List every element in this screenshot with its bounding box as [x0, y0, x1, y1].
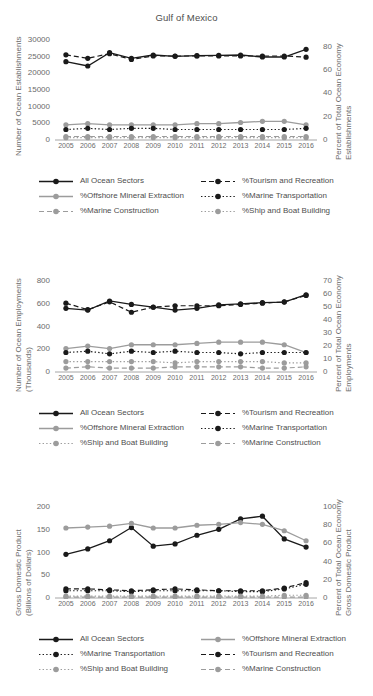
legend-item-all-ocean-sectors[interactable]: All Ocean Sectors: [38, 176, 200, 186]
x-axis-tick-label: 2010: [164, 374, 186, 381]
data-point: [260, 135, 265, 140]
data-point: [107, 588, 112, 593]
data-point: [303, 544, 308, 549]
y-axis-tick-right: 20: [323, 113, 332, 121]
data-point: [107, 127, 112, 132]
legend-label: %Offshore Mineral Extraction: [80, 191, 184, 201]
series-line: [66, 121, 306, 125]
y-axis-tick-left: 0: [46, 368, 50, 376]
data-point: [107, 538, 112, 543]
data-point: [282, 342, 287, 347]
y-axis-title-right-line2: Establishments: [344, 106, 354, 160]
data-point: [151, 544, 156, 549]
data-point: [260, 589, 265, 594]
data-point: [129, 366, 134, 371]
legend-swatch-icon: [38, 409, 74, 418]
series-line: [66, 595, 306, 596]
legend-item-tourism-and-recreation[interactable]: %Tourism and Recreation: [200, 176, 358, 186]
data-point: [107, 299, 112, 304]
x-axis-tick-label: 2013: [230, 600, 252, 607]
legend-label: %Marine Transportation: [80, 649, 165, 659]
x-axis-tick-label: 2016: [295, 142, 317, 149]
x-axis-tick-label: 2007: [99, 600, 121, 607]
data-point: [238, 351, 243, 356]
chart-svg: [55, 272, 317, 373]
data-point: [260, 522, 265, 527]
y-axis-tick-left: 20000: [28, 69, 50, 77]
legend-swatch-icon: [38, 665, 74, 674]
data-point: [151, 350, 156, 355]
legend-swatch-icon: [200, 207, 236, 216]
x-axis-tick-label: 2015: [273, 600, 295, 607]
data-point: [238, 364, 243, 369]
y-axis-tick-right: 20: [323, 342, 332, 350]
data-point: [151, 135, 156, 140]
data-point: [63, 306, 68, 311]
series-line: [66, 516, 306, 554]
x-axis-tick-label: 2011: [186, 374, 208, 381]
legend-item-marine-transportation[interactable]: %Marine Transportation: [200, 191, 358, 201]
legend-item-offshore-mineral-extraction[interactable]: %Offshore Mineral Extraction: [38, 191, 200, 201]
legend-item-ship-and-boat-building[interactable]: %Ship and Boat Building: [38, 438, 200, 448]
y-axis-tick-right: 80: [323, 43, 332, 51]
legend-label: %Offshore Mineral Extraction: [242, 634, 346, 644]
data-point: [172, 342, 177, 347]
data-point: [282, 360, 287, 365]
data-point: [216, 527, 221, 532]
legend-item-offshore-mineral-extraction[interactable]: %Offshore Mineral Extraction: [200, 634, 358, 644]
data-point: [151, 525, 156, 530]
y-axis-title-right-line1: Percent of Total Ocean Economy: [334, 43, 344, 160]
legend-swatch-icon: [200, 424, 236, 433]
legend-label: All Ocean Sectors: [80, 176, 144, 186]
y-axis-tick-right: 80: [323, 521, 332, 529]
data-point: [85, 359, 90, 364]
y-axis-title-left-line1: Gross Domestic Product: [14, 529, 24, 616]
series-line: [66, 128, 306, 129]
x-axis-tick-label: 2008: [120, 374, 142, 381]
legend-item-marine-transportation[interactable]: %Marine Transportation: [200, 423, 358, 433]
legend-item-marine-construction[interactable]: %Marine Construction: [200, 664, 358, 674]
data-point: [151, 366, 156, 371]
data-point: [282, 135, 287, 140]
legend-item-tourism-and-recreation[interactable]: %Tourism and Recreation: [200, 649, 358, 659]
data-point: [107, 346, 112, 351]
y-axis-tick-right: 10: [323, 355, 332, 363]
x-axis-tick-label: 2008: [120, 600, 142, 607]
data-point: [85, 588, 90, 593]
x-axis-tick-label: 2015: [273, 142, 295, 149]
legend-item-marine-transportation[interactable]: %Marine Transportation: [38, 649, 200, 659]
x-axis-tick-label: 2014: [251, 142, 273, 149]
data-point: [194, 53, 199, 58]
y-axis-tick-left: 600: [37, 300, 50, 308]
data-point: [216, 121, 221, 126]
x-axis-tick-label: 2007: [99, 374, 121, 381]
data-point: [282, 127, 287, 132]
y-axis-tick-left: 400: [37, 323, 50, 331]
legend-item-all-ocean-sectors[interactable]: All Ocean Sectors: [38, 408, 200, 418]
chart-title: Gulf of Mexico: [0, 12, 373, 23]
legend-item-marine-construction[interactable]: %Marine Construction: [200, 438, 358, 448]
data-point: [303, 538, 308, 543]
legend-item-tourism-and-recreation[interactable]: %Tourism and Recreation: [200, 408, 358, 418]
data-point: [172, 525, 177, 530]
legend-item-ship-and-boat-building[interactable]: %Ship and Boat Building: [38, 664, 200, 674]
legend-item-marine-construction[interactable]: %Marine Construction: [38, 206, 200, 216]
legend-swatch-icon: [38, 650, 74, 659]
data-point: [238, 120, 243, 125]
data-point: [85, 364, 90, 369]
legend-item-offshore-mineral-extraction[interactable]: %Offshore Mineral Extraction: [38, 423, 200, 433]
legend-item-ship-and-boat-building[interactable]: %Ship and Boat Building: [200, 206, 358, 216]
data-point: [63, 59, 68, 64]
legend-item-all-ocean-sectors[interactable]: All Ocean Sectors: [38, 634, 200, 644]
plot-canvas: 0200400600800010203040506070: [55, 272, 317, 372]
series-line: [66, 351, 306, 354]
y-axis-title-left-line2: (Billions of Dollars): [24, 549, 34, 616]
data-point: [172, 53, 177, 58]
data-point: [303, 126, 308, 131]
data-point: [303, 293, 308, 298]
data-point: [129, 57, 134, 62]
x-axis-tick-label: 2012: [208, 374, 230, 381]
data-point: [151, 359, 156, 364]
y-axis-tick-right: 60: [323, 290, 332, 298]
data-point: [85, 524, 90, 529]
